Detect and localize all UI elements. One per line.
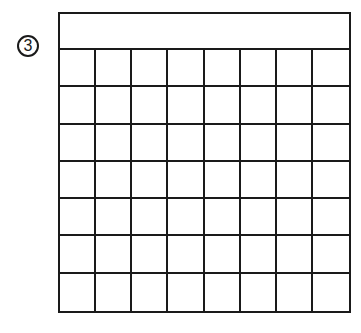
grid-cell [168, 199, 204, 236]
grid-cell [96, 125, 132, 162]
grid-cell [313, 162, 349, 199]
grid-header-row [60, 14, 349, 50]
grid-cell [277, 87, 313, 124]
grid-cell [132, 50, 168, 87]
grid-cell [313, 125, 349, 162]
grid-cell [313, 199, 349, 236]
grid-cell [241, 199, 277, 236]
grid-cell [241, 162, 277, 199]
grid-cell [277, 50, 313, 87]
grid-cell [205, 87, 241, 124]
grid-cells [60, 50, 349, 311]
grid-cell [313, 50, 349, 87]
grid-cell [168, 162, 204, 199]
grid-cell [277, 125, 313, 162]
grid-cell [96, 236, 132, 273]
grid-cell [96, 87, 132, 124]
grid-cell [132, 199, 168, 236]
grid-cell [60, 162, 96, 199]
grid-cell [277, 274, 313, 311]
grid-cell [96, 162, 132, 199]
grid-cell [313, 274, 349, 311]
grid-cell [241, 125, 277, 162]
circled-number-marker: 3 [17, 35, 39, 57]
grid-cell [205, 199, 241, 236]
grid-cell [205, 274, 241, 311]
grid-cell [277, 236, 313, 273]
grid-cell [96, 199, 132, 236]
grid-cell [277, 199, 313, 236]
grid-cell [313, 87, 349, 124]
grid-cell [60, 125, 96, 162]
grid-cell [168, 236, 204, 273]
marker-label: 3 [24, 38, 33, 54]
grid-cell [168, 87, 204, 124]
grid-cell [60, 199, 96, 236]
grid-cell [241, 50, 277, 87]
grid-cell [313, 236, 349, 273]
grid-cell [241, 274, 277, 311]
grid-cell [205, 236, 241, 273]
grid-cell [168, 50, 204, 87]
grid-cell [132, 125, 168, 162]
grid-cell [132, 236, 168, 273]
grid-cell [277, 162, 313, 199]
grid-cell [205, 125, 241, 162]
grid-cell [168, 125, 204, 162]
grid-cell [241, 236, 277, 273]
grid-cell [60, 50, 96, 87]
empty-grid-table [58, 12, 351, 313]
grid-cell [205, 162, 241, 199]
grid-cell [96, 50, 132, 87]
grid-cell [132, 162, 168, 199]
grid-cell [60, 236, 96, 273]
grid-cell [60, 87, 96, 124]
grid-cell [241, 87, 277, 124]
grid-cell [132, 87, 168, 124]
grid-cell [205, 50, 241, 87]
grid-cell [168, 274, 204, 311]
grid-cell [96, 274, 132, 311]
grid-cell [132, 274, 168, 311]
grid-cell [60, 274, 96, 311]
